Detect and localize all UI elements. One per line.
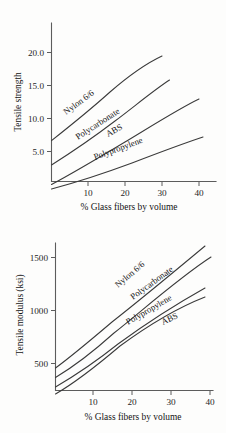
x-tick-label-20: 20 [120,188,130,198]
y-axis-title: Tensile strength [13,72,23,132]
figure-root: 5.0 10.0 15.0 20.0 10 20 30 40 % Glass f… [0,0,226,433]
curve-abs [56,297,206,394]
curve-label-abs: ABS [104,122,124,139]
x-tick-label-10: 10 [88,397,98,407]
y-tick-label-10: 10.0 [28,114,44,124]
x-tick-label-40: 40 [205,397,215,407]
y-tick-label-20: 20.0 [28,48,44,58]
x-tick-label-40: 40 [194,188,204,198]
y-tick-label-1500: 1500 [30,253,49,263]
x-axis-title: % Glass fibers by volume [81,202,178,212]
chart-tensile-strength: 5.0 10.0 15.0 20.0 10 20 30 40 % Glass f… [0,0,226,218]
y-tick-label-15: 15.0 [28,81,44,91]
y-axis-ticks [47,53,52,152]
x-tick-label-30: 30 [157,188,167,198]
curve-label-nylon-6-6: Nylon 6/6 [61,87,96,116]
tensile-modulus-plot: 500 1000 1500 10 20 30 40 % Glass fibers… [0,215,226,433]
x-tick-label-30: 30 [166,397,176,407]
chart-tensile-modulus: 500 1000 1500 10 20 30 40 % Glass fibers… [0,215,226,433]
y-axis-ticks [51,258,56,364]
y-tick-label-500: 500 [34,359,48,369]
y-tick-label-1000: 1000 [30,306,49,316]
x-axis-ticks [93,391,210,396]
y-tick-label-5: 5.0 [33,147,45,157]
tensile-strength-plot: 5.0 10.0 15.0 20.0 10 20 30 40 % Glass f… [0,0,226,218]
curve-label-polypropylene: Polypropylene [92,135,144,162]
x-tick-label-10: 10 [83,188,93,198]
y-axis-title: Tensile modulus (ksi) [15,274,26,355]
x-tick-label-20: 20 [127,397,137,407]
x-axis-title: % Glass fibers by volume [85,412,182,422]
x-axis-ticks [88,182,199,187]
curve-polypropylene [56,288,206,387]
